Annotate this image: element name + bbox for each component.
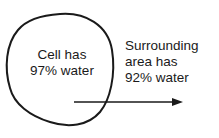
area-label-line2: area has	[125, 54, 199, 70]
cell-label: Cell has 97% water	[22, 47, 102, 79]
surrounding-area-label: Surrounding area has 92% water	[125, 38, 199, 86]
area-label-line3: 92% water	[125, 70, 199, 86]
arrow-head-icon	[172, 98, 183, 106]
cell-label-line2: 97% water	[22, 63, 102, 79]
area-label-line1: Surrounding	[125, 38, 199, 54]
cell-label-line1: Cell has	[22, 47, 102, 63]
